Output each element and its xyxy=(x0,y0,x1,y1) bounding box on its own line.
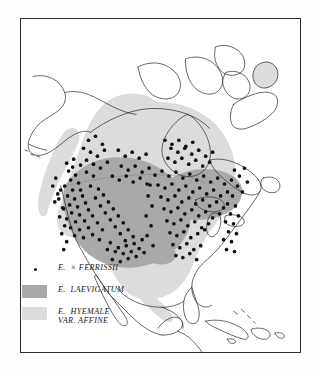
occurrence-dot xyxy=(186,224,190,228)
occurrence-dot xyxy=(74,173,78,177)
occurrence-dot xyxy=(121,252,125,256)
occurrence-dot xyxy=(233,168,237,172)
occurrence-dot xyxy=(226,202,230,206)
occurrence-dot xyxy=(153,173,157,177)
occurrence-dot xyxy=(78,213,82,217)
occurrence-dot xyxy=(169,210,173,214)
occurrence-dot xyxy=(159,195,163,199)
occurrence-dot xyxy=(193,220,197,224)
occurrence-dot xyxy=(185,242,189,246)
occurrence-dot xyxy=(56,192,60,196)
occurrence-dot xyxy=(121,221,125,225)
occurrence-dot xyxy=(72,157,76,161)
occurrence-dot xyxy=(79,163,83,167)
coast-florida xyxy=(183,287,199,323)
occurrence-dot xyxy=(190,208,194,212)
occurrence-dot xyxy=(70,211,74,215)
occurrence-dot xyxy=(147,166,151,170)
occurrence-dot xyxy=(112,207,116,211)
occurrence-dot xyxy=(173,160,177,164)
legend-item-hyemale-affine: E. HYEMALEVAR. AFFINE xyxy=(22,306,172,330)
occurrence-dot-icon xyxy=(34,268,37,271)
occurrence-dot xyxy=(87,208,91,212)
occurrence-dot xyxy=(89,150,93,154)
legend-label-laevigatum: E. LAEVIGATUM xyxy=(47,285,124,294)
occurrence-dot xyxy=(73,234,77,238)
occurrence-dot xyxy=(172,222,176,226)
occurrence-dot xyxy=(196,232,200,236)
occurrence-dot xyxy=(211,150,215,154)
legend-swatch-key-dark xyxy=(22,285,47,298)
occurrence-dot xyxy=(124,244,128,248)
occurrence-dot xyxy=(180,200,184,204)
occurrence-dot xyxy=(181,256,185,260)
occurrence-dot xyxy=(241,190,245,194)
occurrence-dot xyxy=(190,152,194,156)
occurrence-dot xyxy=(194,202,198,206)
legend-label-hyemale-line1: E. HYEMALE xyxy=(58,307,110,316)
occurrence-dot xyxy=(85,158,89,162)
occurrence-dot xyxy=(145,182,149,186)
occurrence-dot xyxy=(107,200,111,204)
occurrence-dot xyxy=(211,216,215,220)
occurrence-dot xyxy=(68,203,72,207)
occurrence-dot xyxy=(131,235,135,239)
occurrence-dot xyxy=(189,236,193,240)
occurrence-dot xyxy=(197,214,201,218)
occurrence-dot xyxy=(229,212,233,216)
coast-arctic-islands-1 xyxy=(138,63,180,99)
occurrence-dot xyxy=(187,196,191,200)
occurrence-dot xyxy=(202,174,206,178)
occurrence-dot xyxy=(134,255,138,259)
occurrence-dot xyxy=(71,165,75,169)
occurrence-dot xyxy=(111,174,115,178)
occurrence-dot xyxy=(67,169,71,173)
occurrence-dot xyxy=(116,214,120,218)
occurrence-dot xyxy=(226,190,230,194)
occurrence-dot xyxy=(59,188,63,192)
occurrence-dot xyxy=(82,146,86,150)
occurrence-dot xyxy=(236,184,240,188)
occurrence-dot xyxy=(146,194,150,198)
occurrence-dot xyxy=(109,218,113,222)
occurrence-dot xyxy=(203,228,207,232)
island-hispaniola xyxy=(251,328,270,339)
occurrence-dot xyxy=(215,200,219,204)
occurrence-dot xyxy=(177,188,181,192)
occurrence-dot xyxy=(160,169,164,173)
occurrence-dot xyxy=(81,194,85,198)
occurrence-dot xyxy=(102,193,106,197)
occurrence-dot xyxy=(61,206,65,210)
occurrence-dot xyxy=(94,134,98,138)
occurrence-dot xyxy=(58,215,62,219)
occurrence-dot xyxy=(94,196,98,200)
occurrence-dot xyxy=(51,184,55,188)
island-newfoundland xyxy=(261,177,280,193)
occurrence-dot xyxy=(227,230,231,234)
occurrence-dot xyxy=(57,197,61,201)
occurrence-dot xyxy=(224,220,228,224)
occurrence-dot xyxy=(65,240,69,244)
occurrence-dot xyxy=(212,188,216,192)
light-range-swatch-icon xyxy=(22,307,47,320)
occurrence-dot xyxy=(79,188,83,192)
occurrence-dot xyxy=(175,234,179,238)
occurrence-dot xyxy=(194,158,198,162)
occurrence-dot xyxy=(204,210,208,214)
occurrence-dot xyxy=(237,214,241,218)
occurrence-dot xyxy=(96,221,100,225)
occurrence-dot xyxy=(96,154,100,158)
occurrence-dot xyxy=(89,184,93,188)
occurrence-dot xyxy=(234,204,238,208)
occurrence-dot xyxy=(126,257,130,261)
occurrence-dot xyxy=(71,188,75,192)
occurrence-dot xyxy=(192,248,196,252)
legend-label-hyemale-line2: VAR. AFFINE xyxy=(58,316,108,325)
occurrence-dot xyxy=(77,181,81,185)
occurrence-dot xyxy=(222,238,226,242)
dark-range-swatch-icon xyxy=(22,285,47,298)
coast-baffin xyxy=(230,92,277,129)
occurrence-dot xyxy=(182,230,186,234)
occurrence-dot xyxy=(176,206,180,210)
occurrence-dot xyxy=(187,162,191,166)
